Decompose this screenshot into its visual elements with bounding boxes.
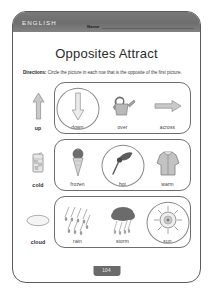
- option-label: hot: [119, 182, 126, 187]
- exercise-row: cold frozen: [22, 139, 191, 191]
- arrow-up-icon: [32, 90, 45, 123]
- exercise-row: cloud: [22, 196, 191, 248]
- page-number-badge: 104: [93, 266, 120, 276]
- directions-lead: Directions:: [23, 70, 47, 75]
- option-cell-frozen[interactable]: frozen: [55, 140, 100, 190]
- worksheet-header: ENGLISH Name: [13, 12, 200, 32]
- directions: Directions: Circle the picture in each r…: [23, 70, 190, 77]
- option-label: sun: [163, 239, 171, 244]
- exercise-row: up down: [22, 82, 191, 134]
- rain-drops-icon: [63, 204, 93, 237]
- name-input-line[interactable]: [102, 28, 194, 29]
- sun-icon: [153, 204, 183, 237]
- option-cell-across[interactable]: across: [145, 83, 190, 133]
- option-cell-hot[interactable]: hot: [100, 140, 145, 190]
- prompt-label: cold: [32, 182, 43, 188]
- option-cell-down[interactable]: down: [55, 83, 100, 133]
- jacket-icon: [154, 147, 182, 180]
- arrow-right-icon: [154, 90, 182, 123]
- answers-cell: down over: [54, 82, 191, 134]
- torch-flame-icon: [110, 147, 136, 180]
- option-label: down: [71, 125, 83, 130]
- ice-cream-cone-icon: [69, 147, 87, 180]
- option-cell-storm[interactable]: storm: [100, 197, 145, 247]
- prompt-label: cloud: [31, 239, 46, 245]
- name-field[interactable]: Name: [87, 24, 194, 29]
- storm-cloud-icon: [109, 204, 137, 237]
- option-label: across: [160, 125, 175, 130]
- page-title: Opposites Attract: [13, 46, 200, 61]
- answers-cell: rain: [54, 196, 191, 248]
- option-label: warm: [161, 182, 174, 187]
- option-label: over: [117, 125, 127, 130]
- option-cell-warm[interactable]: warm: [145, 140, 190, 190]
- directions-text: Circle the picture in each row that is t…: [47, 70, 182, 75]
- prompt-cell: up: [22, 82, 54, 134]
- name-label: Name: [87, 24, 102, 29]
- subject-label: ENGLISH: [22, 19, 57, 26]
- prompt-label: up: [35, 125, 42, 131]
- option-cell-rain[interactable]: rain: [55, 197, 100, 247]
- arrow-down-icon: [71, 90, 85, 123]
- prompt-cell: cold: [22, 139, 54, 191]
- cloud-icon: [26, 204, 50, 237]
- iced-drink-icon: [30, 147, 46, 180]
- worksheet-page: ENGLISH Name Opposites Attract Direction…: [12, 11, 201, 283]
- option-cell-over[interactable]: over: [100, 83, 145, 133]
- option-cell-sun[interactable]: sun: [145, 197, 190, 247]
- watering-can-icon: [110, 90, 136, 123]
- prompt-cell: cloud: [22, 196, 54, 248]
- answers-cell: frozen hot: [54, 139, 191, 191]
- option-label: rain: [73, 239, 82, 244]
- option-label: frozen: [70, 182, 85, 187]
- option-label: storm: [116, 239, 129, 244]
